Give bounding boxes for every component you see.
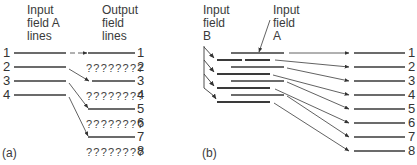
panel-b-field-b-bracket bbox=[204, 46, 216, 99]
panel-b-output-num: 5 bbox=[408, 102, 415, 115]
panel-a-output-num: 4 bbox=[137, 88, 144, 101]
panel-b-caption: (b) bbox=[202, 147, 217, 160]
panel-b-output-num: 7 bbox=[408, 130, 415, 143]
panel-a-input-num: 3 bbox=[3, 74, 10, 87]
panel-b-output-num: 3 bbox=[408, 74, 415, 87]
panel-a-output-num: 6 bbox=[137, 116, 144, 129]
panel-b-output-num: 6 bbox=[408, 116, 415, 129]
panel-b-arrows bbox=[273, 53, 349, 151]
panel-a-caption: (a) bbox=[2, 147, 17, 160]
panel-a-output-num: 1 bbox=[137, 46, 144, 59]
panel-a-input-num: 2 bbox=[3, 60, 10, 73]
panel-a-output-header-3: lines bbox=[102, 30, 127, 43]
panel-b-output-num: 4 bbox=[408, 88, 415, 101]
panel-a-unknown-filler: ???????? bbox=[86, 90, 145, 102]
panel-a-input-num: 1 bbox=[3, 46, 10, 59]
panel-b-field-a-header-3: A bbox=[273, 30, 281, 43]
panel-b-field-b-header-3: B bbox=[203, 30, 211, 43]
panel-a-output-num: 8 bbox=[137, 144, 144, 157]
panel-b-output-lines bbox=[354, 53, 405, 151]
panel-a-input-lines bbox=[14, 53, 66, 95]
panel-a-output-num: 7 bbox=[137, 130, 144, 143]
panel-a-unknown-filler: ???????? bbox=[86, 146, 145, 158]
panel-a-unknown-filler: ???????? bbox=[86, 118, 145, 130]
panel-b-output-num: 2 bbox=[408, 60, 415, 73]
panel-a-unknown-filler: ???????? bbox=[86, 62, 145, 74]
panel-b-output-num: 8 bbox=[408, 144, 415, 157]
panel-a-input-header-3: lines bbox=[27, 30, 52, 43]
panel-a-output-num: 3 bbox=[137, 74, 144, 87]
field-a-pointer bbox=[259, 20, 270, 52]
panel-a-output-num: 2 bbox=[137, 60, 144, 73]
panel-a-output-num: 5 bbox=[137, 102, 144, 115]
panel-a-input-num: 4 bbox=[3, 88, 10, 101]
panel-b-output-num: 1 bbox=[408, 46, 415, 59]
